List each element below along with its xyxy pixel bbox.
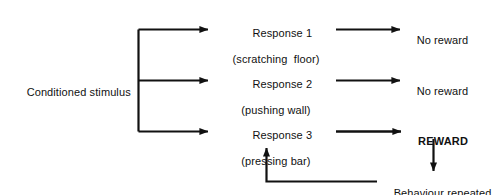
outcome-1-label: No reward: [417, 34, 469, 46]
node-conditioned-stimulus: Conditioned stimulus: [14, 73, 134, 112]
node-response-3: Response 3 (pressing bar): [218, 116, 334, 194]
node-behaviour-repeated: Behaviour repeated: [381, 174, 497, 195]
node-outcome-1: No reward: [404, 21, 494, 60]
response-3-description: (pressing bar): [218, 155, 334, 168]
flow-diagram: Conditioned stimulus Response 1 (scratch…: [0, 0, 497, 195]
conditioned-stimulus-label: Conditioned stimulus: [27, 86, 131, 98]
outcome-3-label: REWARD: [418, 135, 468, 147]
response-3-name: Response 3: [252, 129, 312, 141]
response-2-name: Response 2: [252, 78, 312, 90]
response-1-name: Response 1: [252, 27, 312, 39]
node-outcome-3-reward: REWARD: [405, 122, 495, 161]
node-outcome-2: No reward: [404, 72, 494, 111]
outcome-2-label: No reward: [417, 85, 469, 97]
behaviour-repeated-label: Behaviour repeated: [394, 187, 492, 195]
